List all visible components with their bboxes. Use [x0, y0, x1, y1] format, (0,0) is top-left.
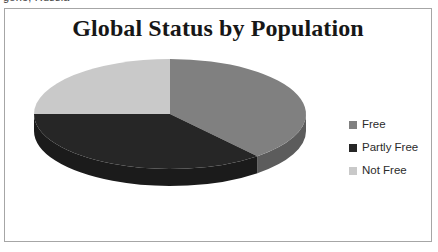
legend-swatch-free	[349, 121, 357, 129]
pie-slice-not-free	[34, 59, 170, 114]
chart-legend: Free Partly Free Not Free	[349, 113, 429, 182]
legend-swatch-partly-free	[349, 144, 357, 152]
legend-swatch-not-free	[349, 167, 357, 175]
chart-frame: Global Status by Population Free Partly …	[4, 8, 432, 242]
legend-label-partly-free: Partly Free	[362, 142, 418, 154]
legend-label-free: Free	[362, 119, 386, 131]
legend-item-not-free[interactable]: Not Free	[349, 159, 429, 182]
legend-item-partly-free[interactable]: Partly Free	[349, 136, 429, 159]
clipped-text-above-chart: gone, Russia	[3, 0, 70, 4]
legend-item-free[interactable]: Free	[349, 113, 429, 136]
legend-label-not-free: Not Free	[362, 165, 407, 177]
